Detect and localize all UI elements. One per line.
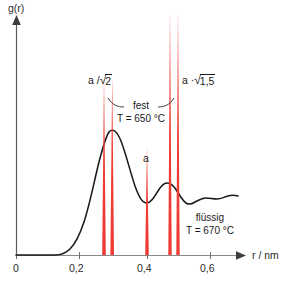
sqrt-group-left: √2 — [100, 73, 112, 88]
peak-label-a-times-sqrt15: a ·√1,5 — [182, 73, 215, 88]
leader-line-left — [108, 98, 124, 107]
bragg-peak-3a — [168, 11, 171, 255]
radial-distribution-function-chart: g(r) r / nm 0 0,2 0,4 0,6 a /√2 a ·√1,5 … — [0, 0, 293, 281]
bragg-peak-3b — [176, 11, 179, 255]
sqrt-group-right: √1,5 — [194, 73, 215, 88]
sqrt-radicand-right: 1,5 — [200, 74, 216, 87]
solid-temperature-label: T = 650 °C — [108, 113, 174, 125]
sqrt-radicand-left: 2 — [105, 74, 112, 87]
leader-line-right — [158, 98, 174, 107]
peak-label-a-times-sqrt15-prefix: a · — [182, 74, 194, 86]
solid-bragg-peaks — [102, 11, 180, 255]
bragg-peak-1a — [102, 76, 106, 255]
x-tick-label-0: 0 — [13, 262, 19, 274]
peak-label-a: a — [143, 152, 149, 164]
x-axis-label: r / nm — [252, 249, 279, 261]
peak-label-a-over-sqrt2-prefix: a / — [88, 74, 100, 86]
y-axis-label: g(r) — [8, 2, 24, 14]
x-tick-label-0-2: 0,2 — [69, 262, 84, 274]
peak-label-a-over-sqrt2: a /√2 — [88, 73, 112, 88]
chart-canvas — [0, 0, 293, 281]
liquid-temperature-label: T = 670 °C — [177, 225, 243, 237]
x-tick-label-0-4: 0,4 — [137, 262, 152, 274]
liquid-phase-label: flüssig — [187, 212, 233, 224]
y-axis-arrow — [12, 15, 21, 25]
x-axis-arrow — [236, 251, 246, 260]
solid-phase-label: fest — [124, 100, 158, 112]
x-tick-label-0-6: 0,6 — [200, 262, 215, 274]
